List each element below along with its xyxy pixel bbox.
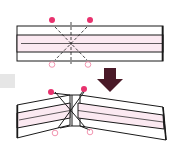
hollow-marker	[52, 130, 58, 136]
origami-diagram	[0, 0, 176, 153]
filled-marker	[49, 17, 55, 23]
hollow-marker	[85, 62, 91, 68]
filled-marker	[87, 17, 93, 23]
flat-strip	[17, 17, 163, 67]
hollow-marker	[87, 129, 93, 135]
hollow-marker	[49, 62, 55, 68]
filled-marker	[81, 86, 87, 92]
filled-marker	[48, 89, 54, 95]
folded-strip	[17, 86, 166, 140]
down-arrow-icon	[97, 68, 123, 92]
